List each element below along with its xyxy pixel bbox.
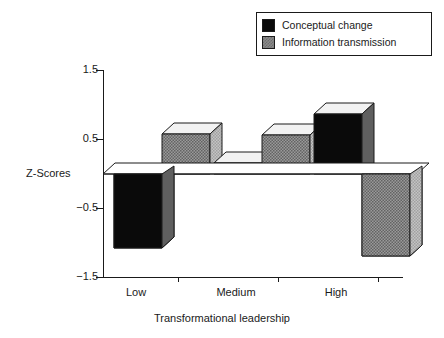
chart-canvas: Conceptual change Information transmissi… — [0, 0, 444, 338]
zero-baseline-plane — [103, 163, 429, 174]
bars-layer — [0, 0, 444, 338]
bar-low-conceptual-change-front — [114, 166, 174, 248]
bar-high-information-transmission-front — [362, 166, 422, 256]
